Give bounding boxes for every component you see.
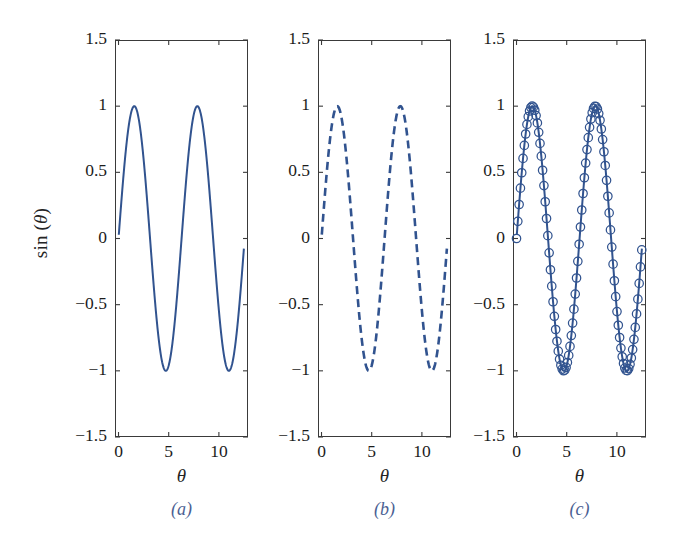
y-tick-label: −1: [459, 361, 505, 379]
x-tick-label: 10: [597, 443, 637, 461]
y-axis-label: sin (θ): [30, 178, 52, 288]
tick-marks-b: [318, 40, 451, 437]
data-curve-a: [119, 106, 244, 371]
y-tick-label: −1.5: [264, 427, 310, 445]
data-curve-b: [322, 106, 447, 371]
x-axis-label-a: θ: [152, 465, 212, 487]
x-axis-label-b: θ: [355, 465, 415, 487]
y-tick-label: 0: [264, 229, 310, 247]
plot-panel-a: −1.5−1−0.500.511.50510θ(a): [115, 40, 248, 437]
y-tick-label: 0.5: [459, 162, 505, 180]
x-tick-label: 0: [302, 443, 342, 461]
y-tick-label: 1.5: [264, 30, 310, 48]
y-axis-label-suffix: ): [30, 208, 51, 215]
data-curve-c: [517, 106, 642, 371]
plot-canvas-c: [513, 40, 646, 437]
panel-caption-b: (b): [345, 499, 425, 520]
y-tick-label: 0: [459, 229, 505, 247]
x-tick-label: 5: [352, 443, 392, 461]
panel-caption-c: (c): [540, 499, 620, 520]
x-tick-label: 0: [99, 443, 139, 461]
plot-panel-b: −1.5−1−0.500.511.50510θ(b): [318, 40, 451, 437]
x-axis-label-c: θ: [550, 465, 610, 487]
x-tick-label: 5: [547, 443, 587, 461]
y-tick-label: −1.5: [61, 427, 107, 445]
y-tick-label: −1: [61, 361, 107, 379]
figure-panel-group: sin (θ) −1.5−1−0.500.511.50510θ(a)−1.5−1…: [0, 0, 694, 542]
x-tick-label: 5: [149, 443, 189, 461]
y-tick-label: 1: [459, 96, 505, 114]
y-tick-label: 0.5: [61, 162, 107, 180]
x-tick-label: 10: [199, 443, 239, 461]
y-tick-label: 1: [61, 96, 107, 114]
y-axis-label-prefix: sin (: [30, 224, 51, 258]
y-tick-label: 0: [61, 229, 107, 247]
x-tick-label: 0: [497, 443, 537, 461]
y-tick-label: −1: [264, 361, 310, 379]
y-tick-label: −0.5: [264, 295, 310, 313]
plot-panel-c: −1.5−1−0.500.511.50510θ(c): [513, 40, 646, 437]
y-tick-label: 1.5: [61, 30, 107, 48]
plot-canvas-a: [115, 40, 248, 437]
panel-caption-a: (a): [142, 499, 222, 520]
y-tick-label: 1.5: [459, 30, 505, 48]
y-axis-label-theta: θ: [30, 214, 51, 224]
y-tick-label: 0.5: [264, 162, 310, 180]
plot-canvas-b: [318, 40, 451, 437]
y-tick-label: 1: [264, 96, 310, 114]
y-tick-label: −0.5: [459, 295, 505, 313]
y-tick-label: −0.5: [61, 295, 107, 313]
y-tick-label: −1.5: [459, 427, 505, 445]
x-tick-label: 10: [402, 443, 442, 461]
